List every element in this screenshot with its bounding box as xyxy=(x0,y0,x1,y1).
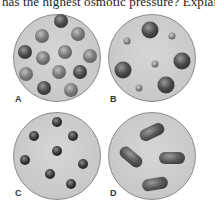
panel-label-d: D xyxy=(110,188,117,198)
particle xyxy=(174,53,191,70)
particles-a xyxy=(13,14,101,102)
panel-label-a: A xyxy=(15,94,22,104)
particles-b xyxy=(108,14,196,102)
particle xyxy=(117,144,145,170)
question-text: has the highest osmotic pressure? Explai… xyxy=(2,0,215,10)
particle xyxy=(45,169,55,179)
particle xyxy=(20,155,30,165)
particle xyxy=(136,85,143,92)
particle xyxy=(19,67,33,81)
particle xyxy=(68,131,78,141)
particle xyxy=(159,152,185,164)
particle xyxy=(138,121,167,143)
particle xyxy=(169,33,176,40)
panel-label-b: B xyxy=(110,94,117,104)
particle xyxy=(73,65,87,79)
particle xyxy=(52,146,62,156)
particle xyxy=(29,131,39,141)
particle xyxy=(142,22,159,39)
particle xyxy=(83,49,97,63)
particle xyxy=(71,27,85,41)
particle xyxy=(66,179,76,189)
particle xyxy=(124,38,131,45)
particle xyxy=(52,117,62,127)
particle xyxy=(52,65,66,79)
particle xyxy=(115,62,132,79)
particles-d xyxy=(108,112,196,200)
particle xyxy=(18,45,32,59)
particle xyxy=(78,159,88,169)
particle xyxy=(64,83,78,97)
panel-label-c: C xyxy=(15,188,22,198)
particle xyxy=(54,14,68,28)
particle xyxy=(158,77,175,94)
particle xyxy=(152,61,159,68)
particle xyxy=(141,176,169,192)
particle xyxy=(36,51,50,65)
particle xyxy=(58,45,72,59)
particles-c xyxy=(13,112,101,200)
particle xyxy=(35,29,49,43)
particle xyxy=(37,81,51,95)
